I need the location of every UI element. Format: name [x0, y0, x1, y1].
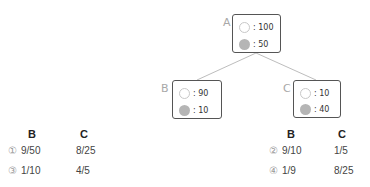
node-c-gray-count: : 40	[314, 105, 329, 114]
node-b-white-count: : 90	[193, 89, 208, 98]
option-2-c: 1/5	[334, 145, 348, 156]
node-a-box: : 100 : 50	[232, 14, 281, 53]
option-number: ①	[8, 145, 17, 156]
option-3[interactable]: ③1/10	[8, 165, 40, 176]
header-b: B	[287, 128, 295, 140]
gray-ball-icon	[179, 105, 190, 116]
node-c-box: : 10 : 40	[293, 80, 341, 118]
node-b-label: B	[161, 82, 169, 95]
option-number: ②	[269, 145, 278, 156]
header-c: C	[80, 128, 88, 140]
node-c-label: C	[283, 82, 291, 95]
option-b-value: 1/10	[21, 165, 40, 176]
gray-ball-icon	[239, 39, 250, 50]
option-2[interactable]: ②9/10	[269, 145, 301, 156]
header-c: C	[338, 128, 346, 140]
option-b-value: 9/50	[21, 145, 40, 156]
option-3-c: 4/5	[76, 165, 90, 176]
option-number: ④	[269, 165, 278, 176]
node-a-label: A	[223, 16, 231, 29]
node-c-white-count: : 10	[314, 89, 329, 98]
option-4[interactable]: ④1/9	[269, 165, 296, 176]
white-ball-icon	[239, 22, 250, 33]
option-b-value: 1/9	[282, 165, 296, 176]
option-b-value: 9/10	[282, 145, 301, 156]
node-b-gray-count: : 10	[193, 106, 208, 115]
option-number: ③	[8, 165, 17, 176]
header-b: B	[28, 128, 36, 140]
option-1-c: 8/25	[76, 145, 95, 156]
option-1[interactable]: ①9/50	[8, 145, 40, 156]
node-a-white-count: : 100	[253, 23, 274, 32]
white-ball-icon	[179, 88, 190, 99]
white-ball-icon	[300, 88, 311, 99]
node-b-box: : 90 : 10	[172, 80, 222, 119]
option-4-c: 8/25	[334, 165, 353, 176]
gray-ball-icon	[300, 104, 311, 115]
node-a-gray-count: : 50	[253, 40, 268, 49]
